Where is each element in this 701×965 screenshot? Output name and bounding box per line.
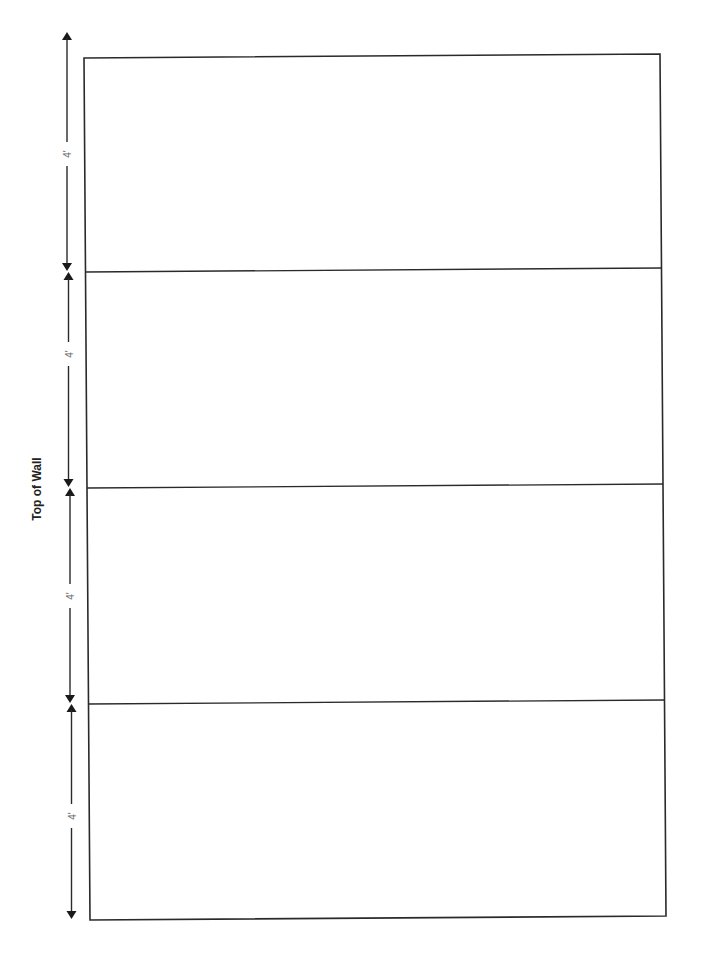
arrow-down-icon <box>65 695 75 703</box>
dimension-segment-3: 4' <box>65 488 76 703</box>
dimension-segment-2: 4' <box>64 272 75 487</box>
arrow-down-icon <box>62 263 72 271</box>
dimension-segment-1: 4' <box>62 32 73 271</box>
segment-label-3: 4' <box>65 592 76 600</box>
panel-divider-2 <box>87 484 663 488</box>
wall-panel-diagram: 4' 4' 4' 4' Top of Wall <box>0 0 701 965</box>
segment-label-1: 4' <box>62 150 73 158</box>
arrow-down-icon <box>67 911 77 919</box>
diagram-title: Top of Wall <box>30 457 44 520</box>
segment-label-4: 4' <box>67 812 78 820</box>
segment-label-2: 4' <box>64 350 75 358</box>
panel-divider-3 <box>89 700 665 704</box>
dimension-segment-4: 4' <box>67 704 78 919</box>
panel-divider-1 <box>86 268 662 272</box>
arrow-down-icon <box>64 479 74 487</box>
